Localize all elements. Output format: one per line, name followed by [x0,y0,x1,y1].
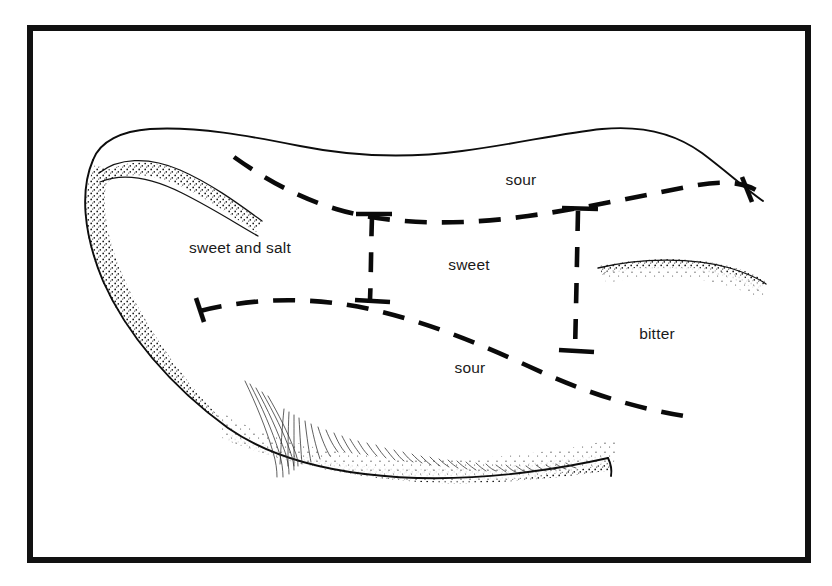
tongue-taste-diagram: sour sweet and salt sweet bitter sour [0,0,832,586]
label-sour-upper: sour [506,171,537,188]
label-sour-lower: sour [455,359,486,376]
figure-container: sour sweet and salt sweet bitter sour [0,0,832,586]
tick-left-bottom [355,300,390,302]
label-sweet-and-salt: sweet and salt [189,239,291,256]
tick-right-bottom [559,350,594,352]
tick-right-top [562,208,598,209]
label-sweet: sweet [448,256,490,273]
label-bitter: bitter [639,325,675,342]
